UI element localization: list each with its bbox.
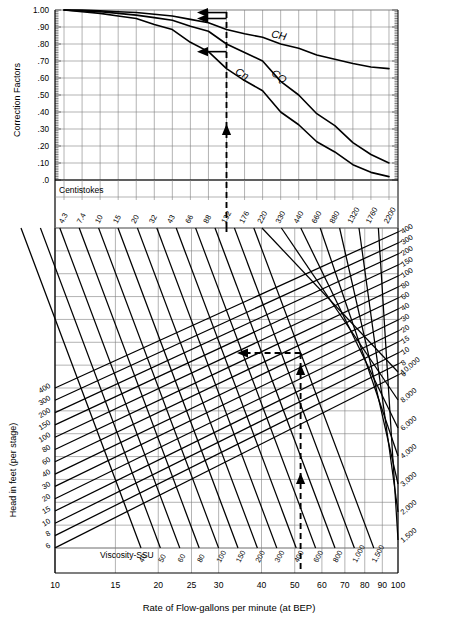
top-y-tick-label: 1.00: [33, 6, 49, 15]
top-y-tick-label: .30: [38, 125, 50, 134]
arrow-left-main: [237, 348, 248, 357]
ssu-label-bottom-1000: 1,000: [350, 543, 367, 564]
x-tick-label: 25: [187, 580, 197, 590]
arrow-up-main-lower: [296, 473, 305, 484]
ssu-label-bottom-1500: 1,500: [370, 543, 387, 564]
centistokes-tick-label: 20: [129, 213, 141, 225]
ssu-label-bottom-150: 150: [234, 549, 248, 564]
ssu-label-bottom-800: 800: [331, 549, 345, 564]
head-label-right-20: 20: [399, 323, 411, 335]
centistokes-tick-label: 43: [165, 213, 177, 225]
centistokes-tick-label: 7.4: [75, 211, 88, 225]
ssu-label-right-6000: 6,000: [399, 414, 419, 433]
centistokes-tick-label: 440: [292, 210, 306, 225]
ssu-label-bottom-300: 300: [273, 549, 287, 564]
head-label-left-80: 80: [40, 443, 52, 455]
main-x-axis-label: Rate of Flow-gallons per minute (at BEP): [143, 602, 316, 613]
head-label-left-30: 30: [40, 479, 52, 491]
ssu-label-right-4000: 4,000: [399, 442, 419, 461]
head-label-left-8: 8: [44, 529, 52, 539]
x-tick-label: 50: [290, 580, 300, 590]
ssu-label-right-2000: 2,000: [399, 498, 419, 517]
main-y-axis-label: Head in feet (per stage): [8, 423, 18, 518]
ssu-label-right-1500: 1,500: [399, 526, 419, 545]
centistokes-tick-label: 66: [183, 213, 195, 225]
head-label-left-300: 300: [37, 393, 52, 407]
x-tick-label: 80: [360, 580, 370, 590]
x-tick-label: 70: [340, 580, 350, 590]
ssu-label-right-8000: 8,000: [399, 386, 419, 405]
viscosity-line-6000: [301, 228, 398, 428]
head-label-left-200: 200: [37, 406, 52, 420]
x-tick-label: 15: [111, 580, 121, 590]
x-tick-label: 60: [317, 580, 327, 590]
top-y-tick-label: .80: [38, 40, 50, 49]
curve-label-Ceta: Cη: [234, 65, 252, 82]
ssu-label-bottom-80: 80: [195, 552, 207, 563]
top-y-tick-label: .10: [38, 159, 50, 168]
head-label-left-20: 20: [40, 492, 52, 504]
centistokes-tick-label: 15: [111, 213, 123, 225]
arrow-up-top-panel: [222, 124, 231, 135]
head-label-right-60: 60: [399, 290, 411, 302]
head-label-left-6: 6: [44, 541, 52, 551]
centistokes-tick-label: 220: [255, 210, 269, 225]
construction-path: [197, 8, 305, 569]
head-label-left-100: 100: [37, 430, 52, 444]
ssu-label-bottom-100: 100: [214, 549, 228, 564]
head-label-right-30: 30: [399, 312, 411, 324]
x-tick-label: 20: [153, 580, 163, 590]
centistokes-tick-label: 88: [201, 213, 213, 225]
ssu-label-right-3000: 3,000: [399, 470, 419, 489]
centistokes-tick-label: 330: [273, 210, 287, 225]
top-y-tick-label: .60: [38, 74, 50, 83]
top-y-tick-label: .90: [38, 23, 50, 32]
head-label-right-80: 80: [399, 279, 411, 291]
viscosity-correction-nomograph: 1.00.90.80.70.60.50.40.30.20.10.0CHCQCη …: [0, 0, 459, 625]
top-y-tick-label: .50: [38, 91, 50, 100]
top-panel-labels: 1.00.90.80.70.60.50.40.30.20.10.0CHCQCη: [33, 6, 289, 185]
centistokes-tick-label: 10: [93, 213, 105, 225]
head-label-right-100: 100: [399, 266, 414, 280]
centistokes-caption: Centistokes: [59, 185, 103, 195]
ssu-label-bottom-600: 600: [311, 549, 325, 564]
centistokes-tick-label: 176: [237, 210, 251, 225]
centistokes-tick-label: 1760: [364, 206, 380, 225]
centistokes-tick-label: 4.3: [57, 211, 70, 225]
x-tick-label: 10: [50, 580, 60, 590]
main-panel-labels: 1015202530405060708090100400400300300200…: [37, 222, 422, 590]
head-label-right-10: 10: [399, 345, 411, 357]
x-tick-label: 100: [391, 580, 406, 590]
centistokes-tick-label: 880: [328, 210, 342, 225]
viscosity-ssu-caption: Viscosity-SSU: [100, 550, 154, 560]
ssu-label-bottom-200: 200: [253, 549, 267, 564]
ssu-label-bottom-60: 60: [176, 552, 188, 563]
top-y-tick-label: .40: [38, 108, 50, 117]
head-label-right-40: 40: [399, 301, 411, 313]
top-y-tick-label: .20: [38, 142, 50, 151]
x-tick-label: 30: [214, 580, 224, 590]
top-y-tick-label: .0: [42, 176, 49, 185]
centistokes-tick-label: 1320: [346, 206, 362, 225]
head-label-left-400: 400: [37, 381, 52, 395]
head-line-15: [55, 342, 398, 511]
centistokes-tick-label: 660: [310, 210, 324, 225]
head-label-left-40: 40: [40, 467, 52, 479]
figure-root: 1.00.90.80.70.60.50.40.30.20.10.0CHCQCη …: [0, 0, 459, 625]
head-label-left-10: 10: [40, 516, 52, 528]
curve-label-CQ: CQ: [269, 66, 289, 85]
top-y-tick-label: .70: [38, 57, 50, 66]
head-label-left-60: 60: [40, 455, 52, 467]
x-tick-label: 90: [378, 580, 388, 590]
head-line-10: [55, 353, 398, 523]
centistokes-tick-label: 32: [147, 213, 159, 225]
head-label-left-150: 150: [37, 418, 52, 432]
head-label-right-15: 15: [399, 334, 411, 346]
ssu-label-bottom-400: 400: [292, 549, 306, 564]
x-tick-label: 40: [257, 580, 267, 590]
top-y-axis-label: Correction Factors: [12, 62, 22, 137]
centistokes-tick-label: 2200: [382, 206, 398, 225]
head-label-left-15: 15: [40, 504, 52, 516]
